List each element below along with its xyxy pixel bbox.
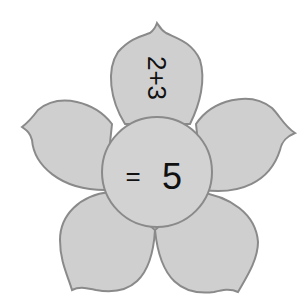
center-circle bbox=[102, 117, 212, 227]
flower-svg: 2+3 = 5 bbox=[0, 0, 308, 308]
center-answer: 5 bbox=[162, 156, 182, 197]
flower-figure: 2+3 = 5 bbox=[0, 0, 308, 308]
petal-top-text: 2+3 bbox=[142, 56, 172, 100]
petal-left bbox=[22, 101, 112, 190]
center-equals: = bbox=[125, 161, 140, 191]
